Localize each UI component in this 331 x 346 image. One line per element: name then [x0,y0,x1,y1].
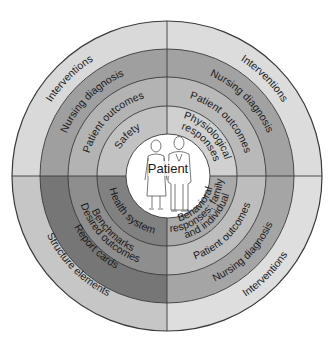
nursing-outcomes-circle-diagram: Patient Interventions Nursing diagnosis … [0,0,331,346]
center-label-patient: Patient [148,161,189,176]
